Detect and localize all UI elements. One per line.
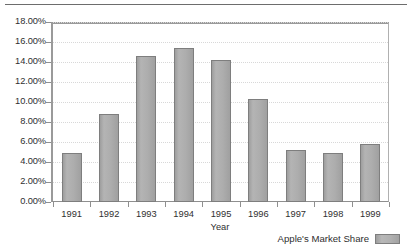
x-axis-tick-label: 1998 (314, 209, 352, 220)
y-axis-tick-label: 16.00% (2, 37, 46, 46)
x-axis-tick-label: 1997 (277, 209, 315, 220)
bar-slot (240, 22, 277, 202)
x-axis-tick (352, 202, 353, 207)
x-axis-tick (314, 202, 315, 207)
x-axis-tick-label: 1994 (165, 209, 203, 220)
bar-slot (90, 22, 127, 202)
bar-slot (53, 22, 90, 202)
x-axis-tick (202, 202, 203, 207)
x-axis-tick (389, 202, 390, 207)
bar-slot (314, 22, 351, 202)
x-axis-tick-label: 1992 (90, 209, 128, 220)
bar[interactable] (248, 99, 268, 203)
bar-slot (202, 22, 239, 202)
bar[interactable] (211, 60, 231, 202)
x-axis-tick-label: 1996 (239, 209, 277, 220)
bar[interactable] (286, 150, 306, 202)
bar[interactable] (360, 144, 380, 202)
y-axis-tick (46, 202, 51, 203)
bar[interactable] (174, 48, 194, 203)
bar[interactable] (136, 56, 156, 202)
legend-label-apples-market-share: Apple's Market Share (278, 233, 369, 244)
y-axis-tick-label: 8.00% (2, 117, 46, 126)
bar-slot (277, 22, 314, 202)
bar-chart-figure: 0.00%2.00%4.00%6.00%8.00%10.00%12.00%14.… (0, 0, 412, 248)
x-axis-tick (240, 202, 241, 207)
x-axis-ticks (53, 202, 389, 208)
x-axis-title: Year (51, 222, 389, 233)
y-axis-tick-label: 0.00% (2, 197, 46, 206)
y-axis-tick-label: 4.00% (2, 157, 46, 166)
legend-swatch-apples-market-share (375, 234, 400, 244)
bar-slot (128, 22, 165, 202)
x-axis-tick-label: 1999 (351, 209, 389, 220)
x-axis-labels: 199119921993199419951996199719981999 (53, 209, 389, 222)
x-axis-tick (277, 202, 278, 207)
x-axis-tick-label: 1995 (202, 209, 240, 220)
x-axis-tick (165, 202, 166, 207)
x-axis-tick-label: 1993 (127, 209, 165, 220)
bar-slot (352, 22, 389, 202)
x-axis-tick-label: 1991 (53, 209, 91, 220)
y-axis-tick-label: 6.00% (2, 137, 46, 146)
chart-legend: Apple's Market Share (278, 233, 400, 244)
bar[interactable] (323, 153, 343, 202)
y-axis-tick-label: 18.00% (2, 17, 46, 26)
y-axis-tick-label: 14.00% (2, 57, 46, 66)
x-axis-tick (53, 202, 54, 207)
y-axis-tick-label: 2.00% (2, 177, 46, 186)
bar-series-apples-market-share (53, 22, 389, 202)
x-axis-tick (90, 202, 91, 207)
x-axis-tick (128, 202, 129, 207)
y-axis-labels: 0.00%2.00%4.00%6.00%8.00%10.00%12.00%14.… (0, 0, 46, 248)
bar[interactable] (99, 114, 119, 202)
y-axis-tick-label: 10.00% (2, 97, 46, 106)
bar[interactable] (62, 153, 82, 202)
bar-slot (165, 22, 202, 202)
y-axis-tick-label: 12.00% (2, 77, 46, 86)
